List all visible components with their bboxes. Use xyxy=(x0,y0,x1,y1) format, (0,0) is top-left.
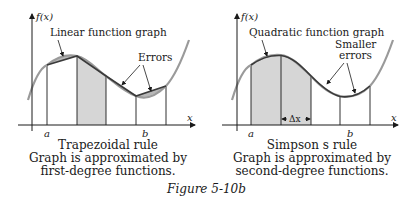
error-leader-arrow-1 xyxy=(327,63,344,84)
trapezoidal-graph: f(x) x a b Linear function graph Errors xyxy=(18,11,195,139)
error-leader-arrow-2 xyxy=(347,63,355,93)
right-caption-line2: second-degree functions. xyxy=(222,165,402,178)
y-axis-label: f(x) xyxy=(35,11,53,22)
figure-label: Figure 5-10b xyxy=(0,182,413,196)
function-curve xyxy=(28,40,189,100)
simpson-graph: Δx f(x) x a b Quadratic function graph S… xyxy=(222,11,398,139)
annotation-errors: Errors xyxy=(138,51,172,63)
annotation-smaller-errors-line2: errors xyxy=(339,49,372,61)
x-axis-label: x xyxy=(187,112,193,123)
right-caption: Simpson s rule Graph is approximated by … xyxy=(222,139,402,178)
error-leader-arrow-1 xyxy=(122,65,140,85)
left-caption: Trapezoidal rule Graph is approximated b… xyxy=(18,139,198,178)
y-axis-label: f(x) xyxy=(240,11,258,22)
error-leader-arrow-2 xyxy=(143,65,151,91)
annotation-quadratic-function: Quadratic function graph xyxy=(249,26,384,38)
ordinate-lines xyxy=(47,56,166,125)
x-axis-label: x xyxy=(391,112,397,123)
left-caption-line2: first-degree functions. xyxy=(18,165,198,178)
a-label: a xyxy=(248,128,254,139)
delta-x-label: Δx xyxy=(289,114,301,124)
annotation-linear-function: Linear function graph xyxy=(50,26,167,38)
approx-leader-arrow xyxy=(262,40,267,56)
approx-leader-arrow xyxy=(58,40,63,56)
a-label: a xyxy=(44,128,50,139)
